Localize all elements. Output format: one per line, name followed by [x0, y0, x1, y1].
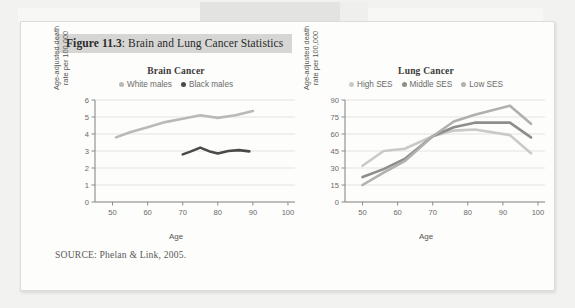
legend-item-low-ses: Low SES	[461, 80, 503, 89]
svg-text:75: 75	[331, 113, 339, 122]
legend-label-white-males: White males	[127, 80, 172, 89]
legend-label-low-ses: Low SES	[469, 80, 503, 89]
chart-panel-brain-cancer: Brain Cancer White males Black males Age…	[51, 66, 301, 241]
svg-text:60: 60	[143, 208, 151, 217]
x-axis-label-brain-cancer: Age	[51, 232, 301, 241]
svg-text:80: 80	[214, 208, 222, 217]
svg-text:15: 15	[331, 181, 339, 190]
svg-text:4: 4	[85, 130, 89, 139]
figure-title-band: Figure 11.3: Brain and Lung Cancer Stati…	[57, 34, 292, 53]
svg-text:100: 100	[532, 208, 545, 217]
figure-source-note: SOURCE: Phelan & Link, 2005.	[55, 249, 186, 260]
svg-text:50: 50	[108, 208, 116, 217]
svg-text:3: 3	[85, 147, 89, 156]
chart-svg-lung-cancer: 01530456075905060708090100	[301, 94, 551, 228]
svg-text:60: 60	[393, 208, 401, 217]
legend-item-high-ses: High SES	[349, 80, 393, 89]
y-axis-label-lung-cancer: Age-adjusted death rate per 100,000	[303, 14, 317, 102]
chart-legend-brain-cancer: White males Black males	[51, 80, 301, 89]
svg-text:5: 5	[85, 113, 89, 122]
figure-page-card: Figure 11.3: Brain and Lung Cancer Stati…	[20, 21, 555, 291]
svg-text:90: 90	[499, 208, 507, 217]
chart-panel-lung-cancer: Lung Cancer High SES Middle SES Low SES …	[301, 66, 551, 241]
legend-item-white-males: White males	[119, 80, 172, 89]
svg-text:6: 6	[85, 96, 89, 105]
svg-text:0: 0	[335, 198, 339, 207]
plot-area-brain-cancer: Age-adjusted death rate per 100,000 0123…	[51, 94, 301, 241]
legend-dot-high-ses	[349, 82, 354, 87]
legend-label-middle-ses: Middle SES	[410, 80, 453, 89]
svg-text:60: 60	[331, 130, 339, 139]
svg-text:100: 100	[282, 208, 295, 217]
plot-area-lung-cancer: Age-adjusted death rate per 100,000 0153…	[301, 94, 551, 241]
legend-dot-low-ses	[461, 82, 466, 87]
x-axis-label-lung-cancer: Age	[301, 232, 551, 241]
svg-text:0: 0	[85, 198, 89, 207]
legend-dot-white-males	[119, 82, 124, 87]
y-axis-label-line2-brain: rate per 100,000	[62, 14, 71, 102]
legend-dot-middle-ses	[402, 82, 407, 87]
svg-text:70: 70	[428, 208, 436, 217]
svg-text:30: 30	[331, 164, 339, 173]
legend-label-black-males: Black males	[189, 80, 233, 89]
chart-svg-brain-cancer: 01234565060708090100	[51, 94, 301, 228]
chart-legend-lung-cancer: High SES Middle SES Low SES	[301, 80, 551, 89]
svg-text:80: 80	[464, 208, 472, 217]
legend-dot-black-males	[181, 82, 186, 87]
svg-text:2: 2	[85, 164, 89, 173]
legend-item-middle-ses: Middle SES	[402, 80, 453, 89]
svg-text:50: 50	[358, 208, 366, 217]
chart-title-lung-cancer: Lung Cancer	[301, 66, 551, 76]
figure-title-text: : Brain and Lung Cancer Statistics	[122, 37, 284, 49]
svg-text:90: 90	[249, 208, 257, 217]
svg-text:45: 45	[331, 147, 339, 156]
legend-item-black-males: Black males	[181, 80, 233, 89]
svg-text:70: 70	[178, 208, 186, 217]
y-axis-label-brain-cancer: Age-adjusted death rate per 100,000	[53, 14, 67, 102]
y-axis-label-line2-lung: rate per 100,000	[312, 14, 321, 102]
chart-title-brain-cancer: Brain Cancer	[51, 66, 301, 76]
legend-label-high-ses: High SES	[357, 80, 393, 89]
svg-text:1: 1	[85, 181, 89, 190]
svg-text:90: 90	[331, 96, 339, 105]
figure-number: Figure 11.3	[66, 37, 122, 49]
